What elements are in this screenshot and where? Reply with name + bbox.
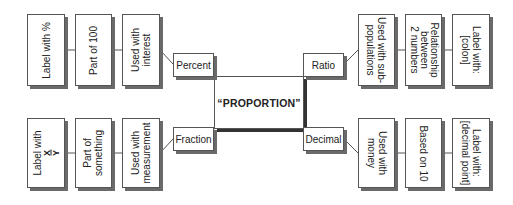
ratio-detail-used-with-subpopulations: Used with sub- populations [358,14,395,86]
percent-label: Percent [176,60,210,71]
ratio-detail-label-with-colon: Label with: [colon] [452,14,490,86]
box-text: Based on 10 [418,125,429,181]
fraction-detail-used-with-measurement: Used with measurement [122,118,160,188]
decimal-box: Decimal [303,127,344,151]
box-text: Label with: [colon] [460,26,482,74]
percent-box: Percent [173,53,214,77]
decimal-detail-label-with-decimal-point: Label with: [decimal point] [452,118,490,188]
percent-detail-used-with-interest: Used with interest [122,14,160,86]
ratio-detail-relationship-between-2-numbers: Relationship between 2 numbers [405,14,442,86]
box-text: Relationship between 2 numbers [409,22,439,77]
fraction-label: Fraction [175,134,211,145]
fraction-detail-part-of-something: Part of something [75,118,112,188]
box-text: Part of 100 [88,26,99,75]
box-text: Label with % [41,22,52,79]
decimal-label: Decimal [305,134,341,145]
box-text: Label with X Y [32,130,60,175]
box-text: Label with: [decimal point] [460,121,482,185]
ratio-label: Ratio [312,60,335,71]
fraction-box: Fraction [173,127,214,151]
proportion-center-box: “PROPORTION” [214,76,304,129]
percent-detail-part-of-100: Part of 100 [75,14,112,86]
percent-detail-label-with-percent: Label with % [27,14,65,86]
x-over-y-fraction: X Y [43,150,60,156]
box-text: Used with interest [130,28,152,72]
ratio-box: Ratio [303,53,344,77]
proportion-label: “PROPORTION” [217,97,301,109]
box-text: Used with money [366,131,388,175]
fraction-detail-label-with-x-over-y: Label with X Y [27,118,65,188]
decimal-detail-used-with-money: Used with money [358,118,395,188]
decimal-detail-based-on-10: Based on 10 [405,118,442,188]
box-text: Used with sub- populations [366,17,388,83]
box-text: Used with measurement [130,122,152,183]
box-text: Part of something [83,130,105,176]
